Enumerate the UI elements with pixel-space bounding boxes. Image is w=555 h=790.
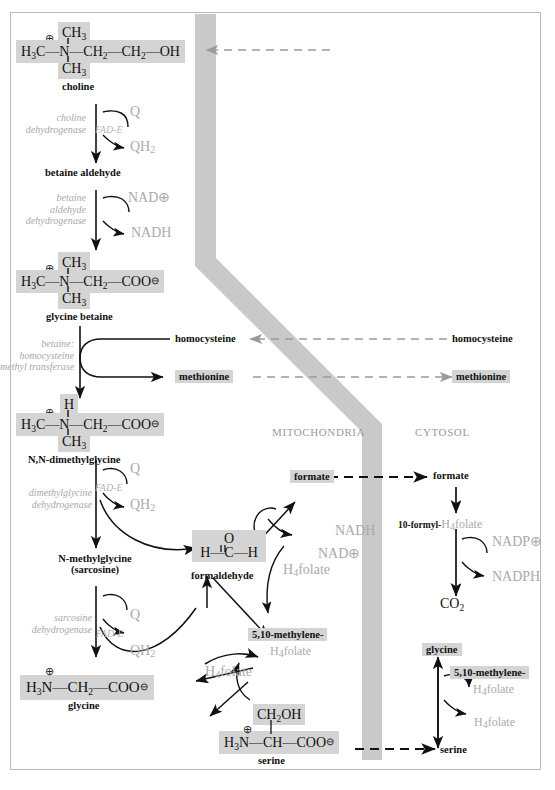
- co2-label: CO2: [440, 596, 464, 613]
- glycine-cytosol-label: glycine: [422, 643, 462, 656]
- formyl-folate-prefix: 10-formyl-: [398, 520, 441, 530]
- pathway-figure: CH3 ⊕ H3C—N—CH2—CH2—OH CH3 choline choli…: [0, 0, 555, 790]
- serine-charge: ⊕: [243, 723, 252, 736]
- methylene-folate-cytosol-line2: H4folate: [473, 682, 514, 697]
- h4folate-c-label: H4folate: [474, 715, 515, 730]
- glycine-charge: ⊕: [45, 665, 54, 678]
- formate-cytosol-label: formate: [433, 470, 469, 481]
- formyl-folate-label: 10-formyl-H4folate: [398, 514, 482, 532]
- cofactor-nadp-plus: NADP⊕: [492, 533, 542, 550]
- compartment-mitochondria: MITOCHONDRIA: [272, 426, 365, 438]
- compartment-cytosol: CYTOSOL: [415, 426, 470, 438]
- serine-label: serine: [258, 755, 285, 766]
- formyl-folate-suffix: H4folate: [441, 517, 482, 531]
- serine-cytosol-label: serine: [440, 744, 467, 755]
- cofactor-nadph: NADPH: [492, 569, 540, 585]
- methylene-folate-cytosol-line1: 5,10-methylene-: [450, 666, 529, 679]
